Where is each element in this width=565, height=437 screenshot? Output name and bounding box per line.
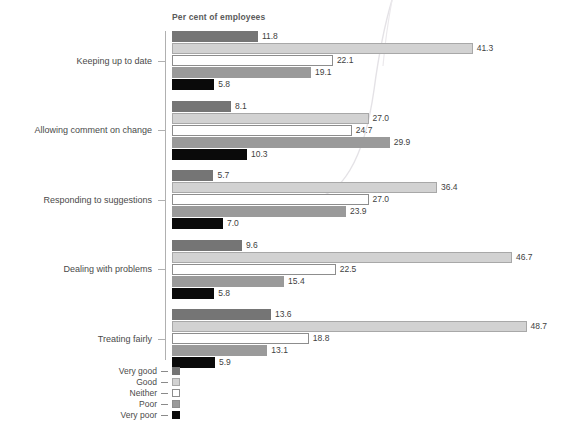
bar-value-label: 46.7 xyxy=(516,252,533,263)
bar-value-label: 27.0 xyxy=(373,113,390,124)
bar-very-poor xyxy=(172,218,223,229)
bar-value-label: 7.0 xyxy=(227,218,239,229)
category-label: Keeping up to date xyxy=(76,56,152,66)
legend-swatch-very-poor xyxy=(172,411,180,419)
bar-very-good xyxy=(172,170,213,181)
bar-very-good xyxy=(172,309,271,320)
legend-swatch-poor xyxy=(172,400,180,408)
legend-item-label: Neither xyxy=(130,388,157,398)
legend-item-label: Very good xyxy=(119,366,157,376)
bar-neither xyxy=(172,125,352,136)
bar-neither xyxy=(172,194,369,205)
bar-very-good xyxy=(172,101,231,112)
bar-value-label: 22.1 xyxy=(337,55,354,66)
category-label: Treating fairly xyxy=(98,334,152,344)
bar-value-label: 36.4 xyxy=(441,182,458,193)
bar-value-label: 15.4 xyxy=(288,276,305,287)
legend-swatch-neither xyxy=(172,389,180,397)
legend-dash-icon xyxy=(161,382,168,383)
category-axis-tick xyxy=(158,200,166,201)
bar-good xyxy=(172,321,527,332)
bar-value-label: 13.6 xyxy=(275,309,292,320)
legend-dash-icon xyxy=(161,404,168,405)
bar-good xyxy=(172,43,473,54)
bar-value-label: 22.5 xyxy=(340,264,357,275)
bar-value-label: 19.1 xyxy=(315,67,332,78)
bar-value-label: 41.3 xyxy=(477,43,494,54)
bar-value-label: 9.6 xyxy=(246,240,258,251)
bar-neither xyxy=(172,333,309,344)
category-axis-tick xyxy=(158,61,166,62)
bar-value-label: 8.1 xyxy=(235,101,247,112)
bar-value-label: 23.9 xyxy=(350,206,367,217)
bar-very-good xyxy=(172,31,258,42)
legend-item: Very good xyxy=(60,366,180,376)
bar-very-poor xyxy=(172,149,247,160)
legend-item: Neither xyxy=(60,388,180,398)
bar-poor xyxy=(172,206,346,217)
legend-item: Good xyxy=(60,377,180,387)
legend-dash-icon xyxy=(161,393,168,394)
legend-item-label: Very poor xyxy=(121,410,157,420)
category-label: Responding to suggestions xyxy=(43,195,152,205)
category-axis-tick xyxy=(158,130,166,131)
category-axis-tick xyxy=(158,269,166,270)
legend-dash-icon xyxy=(161,415,168,416)
bar-good xyxy=(172,113,369,124)
bar-poor xyxy=(172,276,284,287)
bar-poor xyxy=(172,345,267,356)
legend-item-label: Good xyxy=(136,377,157,387)
legend-swatch-very-good xyxy=(172,367,180,375)
category-label: Dealing with problems xyxy=(63,264,152,274)
legend-item: Poor xyxy=(60,399,180,409)
bar-neither xyxy=(172,55,333,66)
legend-item-label: Poor xyxy=(139,399,157,409)
bar-neither xyxy=(172,264,336,275)
bar-value-label: 48.7 xyxy=(531,321,548,332)
bar-value-label: 5.8 xyxy=(218,79,230,90)
bar-value-label: 24.7 xyxy=(356,125,373,136)
category-label: Allowing comment on change xyxy=(34,125,152,135)
bar-value-label: 27.0 xyxy=(373,194,390,205)
bar-poor xyxy=(172,67,311,78)
category-axis-tick xyxy=(158,339,166,340)
bar-value-label: 11.8 xyxy=(262,31,278,42)
bar-good xyxy=(172,182,437,193)
bar-good xyxy=(172,252,512,263)
legend-dash-icon xyxy=(161,371,168,372)
legend-item: Very poor xyxy=(60,410,180,420)
bar-value-label: 10.3 xyxy=(251,149,268,160)
chart-legend: Very good Good Neither Poor Very poor xyxy=(60,366,180,421)
bar-very-poor xyxy=(172,288,214,299)
bar-very-good xyxy=(172,240,242,251)
bar-value-label: 29.9 xyxy=(394,137,411,148)
bar-value-label: 5.9 xyxy=(219,357,231,368)
legend-swatch-good xyxy=(172,378,180,386)
bar-value-label: 18.8 xyxy=(313,333,330,344)
chart-axis-title: Per cent of employees xyxy=(172,12,265,22)
bar-chart-figure: Per cent of employees 11.841.322.119.15.… xyxy=(0,0,565,437)
bar-poor xyxy=(172,137,390,148)
bar-value-label: 13.1 xyxy=(271,345,288,356)
bar-value-label: 5.8 xyxy=(218,288,230,299)
bar-very-poor xyxy=(172,79,214,90)
bar-value-label: 5.7 xyxy=(217,170,229,181)
category-axis-line xyxy=(165,31,166,360)
